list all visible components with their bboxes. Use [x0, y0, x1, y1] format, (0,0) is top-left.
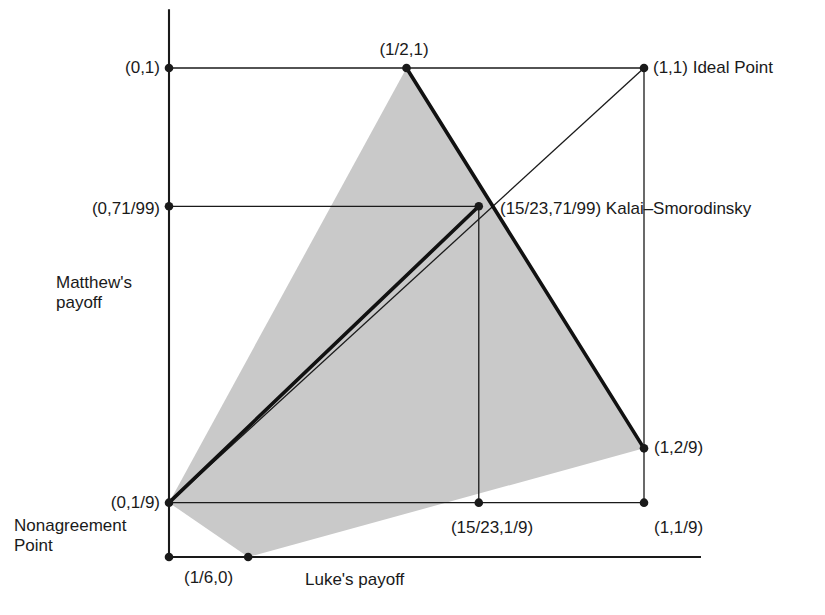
- label-nonagreement-point: Nonagreement Point: [14, 516, 126, 556]
- label-point-sixth-0: (1/6,0): [184, 568, 233, 588]
- point-marker: [165, 553, 174, 562]
- label-point-15-23-1-9: (15/23,1/9): [451, 518, 533, 538]
- feasible-region-layer: [169, 68, 644, 557]
- x-axis-title: Luke's payoff: [305, 570, 404, 590]
- point-marker: [640, 64, 649, 73]
- label-point-1-2-9: (1,2/9): [654, 438, 703, 458]
- point-marker: [244, 553, 253, 562]
- label-point-0-71-99: (0,71/99): [40, 199, 160, 219]
- y-axis-title: Matthew's payoff: [56, 273, 132, 313]
- point-marker: [402, 64, 411, 73]
- label-point-0-1: (0,1): [82, 58, 160, 78]
- bargaining-set-figure: (0,1) (1/2,1) (1,1) Ideal Point (0,71/99…: [0, 0, 825, 615]
- feasible-region-polygon: [169, 68, 644, 557]
- point-marker: [474, 202, 483, 211]
- label-point-ideal: (1,1) Ideal Point: [653, 58, 773, 78]
- point-marker: [165, 202, 174, 211]
- point-marker: [640, 444, 649, 453]
- label-point-0-1-9: (0,1/9): [60, 493, 160, 513]
- point-marker: [474, 498, 483, 507]
- point-marker: [165, 498, 174, 507]
- label-point-1-1-9: (1,1/9): [654, 518, 703, 538]
- label-point-kalai-smorodinsky: (15/23,71/99) Kalai–Smorodinsky: [500, 199, 751, 219]
- label-point-half-1: (1/2,1): [379, 40, 428, 60]
- point-marker: [640, 498, 649, 507]
- point-marker: [165, 64, 174, 73]
